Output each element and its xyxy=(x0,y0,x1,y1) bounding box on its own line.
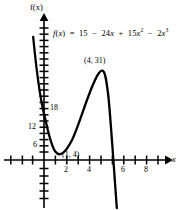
y-tick-label-6: 6 xyxy=(33,141,37,149)
x-tick-label-8: 8 xyxy=(144,166,148,174)
local-maximum-label: (4, 31) xyxy=(84,57,105,65)
y-axis-label: f(x) xyxy=(30,3,43,12)
y-tick-label-12: 12 xyxy=(28,123,36,131)
x-tick-label-2: 2 xyxy=(64,166,68,174)
y-tick-label-18: 18 xyxy=(50,104,58,112)
y-axis-arrowhead xyxy=(40,13,49,21)
function-graph-figure: f(x) x f(x) = 15 − 24x + 15x2 − 2x3 18 1… xyxy=(0,0,180,210)
function-equation: f(x) = 15 − 24x + 15x2 − 2x3 xyxy=(53,29,168,38)
x-tick-label-4: 4 xyxy=(87,166,91,174)
local-minimum-label: (1, 4) xyxy=(62,151,79,159)
x-tick-label-6: 6 xyxy=(121,166,125,174)
x-axis-label: x xyxy=(172,155,176,164)
